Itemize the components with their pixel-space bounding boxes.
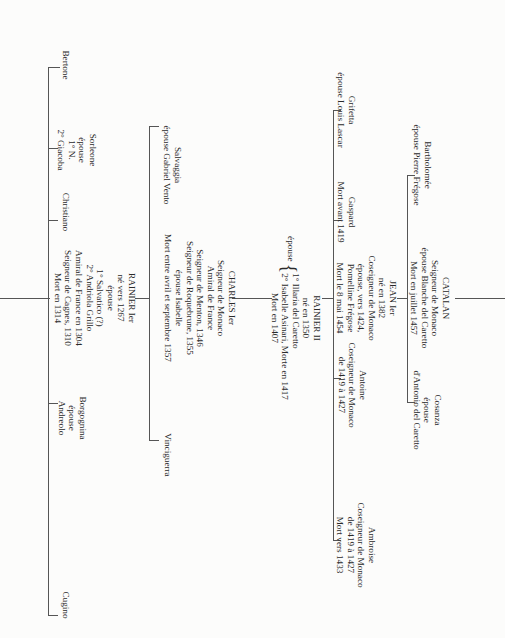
person-detail: 1° N. [66, 129, 77, 170]
spouse-label: épouse [285, 236, 296, 262]
person-detail: Mort entre avril et septembre 1357 [163, 234, 174, 362]
person-name: Antoine [357, 342, 368, 427]
person-detail: épouse [106, 250, 117, 346]
person-name: Salvaggia [172, 126, 183, 205]
connector-line [232, 298, 272, 299]
person-detail: Coseigneur de Monaco [347, 342, 358, 427]
person-bertone: Bertone [61, 50, 72, 79]
person-detail: épouse Louis Lascar [335, 72, 346, 148]
person-name: Gaspard [346, 181, 357, 242]
connector-line [48, 615, 58, 616]
person-detail: né vers 1267 [116, 250, 127, 346]
person-borgognina: Borgognina épouse Andreolo [56, 396, 88, 439]
person-name: Borgognina [77, 396, 88, 439]
connector-line [48, 67, 49, 615]
person-name: CHARLES Ier [226, 234, 237, 362]
person-name: RAINIER Ier [127, 250, 138, 346]
person-detail: Seigneur de Cagnes, 1310 [63, 250, 74, 346]
person-detail: Pomelline Frégose [345, 255, 356, 340]
person-detail: épouse Isabelle [174, 234, 185, 362]
person-name: Cosanza [432, 370, 443, 449]
person-name: Grifetta [346, 72, 357, 148]
person-detail: épouse [67, 396, 78, 439]
person-detail: Andreolo [56, 396, 67, 439]
person-vinciguerra: Vinciguerra [163, 433, 174, 476]
person-detail: épouse Pierre Frégose [411, 124, 422, 205]
person-detail: né en 1350 [301, 236, 312, 400]
person-gaspard: Gaspard Mort avant 1419 [335, 181, 356, 242]
person-detail: Mort vers 1433 [335, 502, 346, 587]
person-detail: Seigneur de Monaco [430, 248, 441, 349]
person-name: Cugino [61, 591, 72, 618]
person-name: Vinciguerra [163, 433, 174, 476]
person-name: CATALAN [441, 248, 452, 349]
person-charles-1: CHARLES Ier Seigneur de Monaco Amiral de… [163, 234, 237, 362]
connector-line [149, 126, 150, 441]
connector-line [48, 67, 60, 68]
spouse-group: épouse { 1° Illaria del Caretto 2° Isabe… [280, 236, 301, 400]
person-detail: Seigneur de Menton, 1346 [195, 234, 206, 362]
person-cosanza: Cosanza épouse d'Antonio del Caretto [411, 370, 443, 449]
person-catalan: CATALAN Seigneur de Monaco épouse Blanch… [409, 248, 451, 349]
person-detail: Coseigneur de Monaco [366, 255, 377, 340]
spouse-list: 1° Illaria del Caretto 2° Isabelle Asina… [280, 273, 301, 400]
person-detail: de 1419 à 1427 [345, 502, 356, 587]
connector-line [0, 298, 50, 299]
person-jean-1: JEAN Ier né en 1382 Coseigneur de Monaco… [334, 255, 398, 340]
person-name: Ambroise [367, 502, 378, 587]
person-sorleone: Sorleone épouse 1° N. 2° Giacoba [56, 129, 98, 170]
person-grifetta: Grifetta épouse Louis Lascar [335, 72, 356, 148]
person-detail: épouse [422, 370, 433, 449]
person-detail: 2° Giacoba [56, 129, 67, 170]
spouse: 1° Illaria del Caretto [291, 273, 302, 400]
brace-icon: { [281, 264, 301, 274]
connector-line [48, 220, 58, 221]
person-name: JEAN Ier [387, 255, 398, 340]
person-detail: Amiral de France [205, 234, 216, 362]
person-name: RAINIER II [312, 236, 323, 400]
person-antoine: Antoine Coseigneur de Monaco de 1419 à 1… [336, 342, 368, 427]
person-salvaggia: Salvaggia épouse Gabriel Vento [161, 126, 182, 205]
person-detail: épouse, vers 1424, [355, 255, 366, 340]
person-detail: épouse Blanche del Caretto [419, 248, 430, 349]
person-detail: de 1419 à 1427 [336, 342, 347, 427]
person-detail: Seigneur de Roquebrune, 1355 [184, 234, 195, 362]
person-bartholomee: Bartholomée épouse Pierre Frégose [411, 124, 432, 205]
person-detail: épouse Gabriel Vento [161, 126, 172, 205]
connector-line [149, 440, 159, 441]
person-cugino: Cugino [61, 591, 72, 618]
person-detail: Mort en 1407 [270, 236, 281, 400]
person-rainier-1: RAINIER Ier né vers 1267 épouse 1° Salva… [53, 250, 138, 346]
person-detail: Seigneur de Monaco [216, 234, 227, 362]
person-detail: Mort en 1314 [53, 250, 64, 346]
person-christiano: Christiano [61, 193, 72, 231]
person-detail: né en 1382 [377, 255, 388, 340]
person-detail: Mort en juillet 1457 [409, 248, 420, 349]
person-name: Bertone [61, 50, 72, 79]
person-detail: Coseigneur de Monaco [356, 502, 367, 587]
person-ambroise: Ambroise Coseigneur de Monaco de 1419 à … [335, 502, 377, 587]
spouse: 2° Isabelle Asinari, Morte en 1417 [280, 273, 291, 400]
person-detail: épouse [77, 129, 88, 170]
person-name: Christiano [61, 193, 72, 231]
person-detail: Mort le 8 mai 1454 [334, 255, 345, 340]
person-name: Bartholomée [422, 124, 433, 205]
person-name: Sorleone [88, 129, 99, 170]
connector-line [455, 298, 505, 299]
person-detail: 1° Salvatico (?) [95, 250, 106, 346]
person-rainier-2: RAINIER II né en 1350 épouse { 1° Illari… [270, 236, 323, 400]
connector-line [149, 126, 159, 127]
person-detail: 2° Andriola Grillo [84, 250, 95, 346]
person-detail: Mort avant 1419 [335, 181, 346, 242]
person-detail: d'Antonio del Caretto [411, 370, 422, 449]
person-detail: Amiral de France en 1304 [74, 250, 85, 346]
